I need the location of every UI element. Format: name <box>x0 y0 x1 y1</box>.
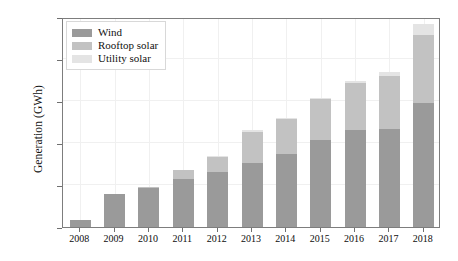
bar-segment-wind <box>70 220 91 227</box>
bar-2010 <box>138 187 159 227</box>
legend-item-utility-solar: Utility solar <box>72 52 158 65</box>
bar-segment-wind <box>310 140 331 227</box>
legend-swatch-rooftop-solar <box>72 42 92 50</box>
bar-2013 <box>242 130 263 227</box>
y-axis-label: Generation (GWh) <box>32 29 44 229</box>
bar-segment-utility-solar <box>379 72 400 75</box>
bar-segment-wind <box>345 130 366 227</box>
bar-segment-utility-solar <box>413 24 434 35</box>
bar-segment-rooftop-solar <box>379 76 400 129</box>
legend-label: Utility solar <box>98 52 151 65</box>
bar-segment-rooftop-solar <box>242 132 263 164</box>
bar-segment-utility-solar <box>310 98 331 100</box>
chart-legend: WindRooftop solarUtility solar <box>66 21 166 70</box>
bar-2017 <box>379 72 400 227</box>
legend-label: Rooftop solar <box>98 39 158 52</box>
x-tick-mark <box>79 228 80 232</box>
legend-swatch-wind <box>72 29 92 37</box>
bar-segment-utility-solar <box>207 156 228 157</box>
x-tick-mark <box>423 228 424 232</box>
bar-segment-wind <box>379 129 400 227</box>
chart-figure: Generation (GWh) 05000100001500020000250… <box>0 0 458 261</box>
bar-segment-rooftop-solar <box>138 187 159 188</box>
bar-segment-rooftop-solar <box>207 157 228 173</box>
x-tick-mark <box>148 228 149 232</box>
legend-item-rooftop-solar: Rooftop solar <box>72 39 158 52</box>
legend-swatch-utility-solar <box>72 55 92 63</box>
bar-segment-rooftop-solar <box>413 35 434 103</box>
legend-label: Wind <box>98 26 122 39</box>
bar-segment-rooftop-solar <box>345 83 366 130</box>
bar-segment-rooftop-solar <box>173 170 194 179</box>
bar-segment-rooftop-solar <box>310 99 331 140</box>
bar-2018 <box>413 24 434 227</box>
bar-2011 <box>173 170 194 227</box>
bar-segment-utility-solar <box>345 81 366 84</box>
bar-segment-wind <box>104 194 125 227</box>
x-tick-label-2018: 2018 <box>400 233 446 244</box>
x-tick-mark <box>251 228 252 232</box>
x-tick-mark <box>354 228 355 232</box>
bar-2009 <box>104 194 125 227</box>
bar-2008 <box>70 220 91 227</box>
bar-segment-wind <box>207 172 228 227</box>
bar-2016 <box>345 81 366 227</box>
x-tick-mark <box>217 228 218 232</box>
bar-segment-wind <box>242 163 263 227</box>
bar-segment-wind <box>138 188 159 227</box>
x-tick-mark <box>388 228 389 232</box>
bar-2015 <box>310 98 331 227</box>
x-tick-mark <box>285 228 286 232</box>
bar-segment-utility-solar <box>242 130 263 131</box>
bar-2012 <box>207 156 228 227</box>
legend-item-wind: Wind <box>72 26 158 39</box>
x-tick-mark <box>320 228 321 232</box>
bar-segment-rooftop-solar <box>276 119 297 153</box>
bar-segment-wind <box>276 154 297 227</box>
bar-segment-wind <box>173 179 194 227</box>
x-tick-mark <box>182 228 183 232</box>
x-tick-mark <box>114 228 115 232</box>
bar-2014 <box>276 118 297 227</box>
bar-segment-utility-solar <box>276 118 297 119</box>
y-tick-mark <box>57 228 62 229</box>
bar-segment-wind <box>413 103 434 227</box>
